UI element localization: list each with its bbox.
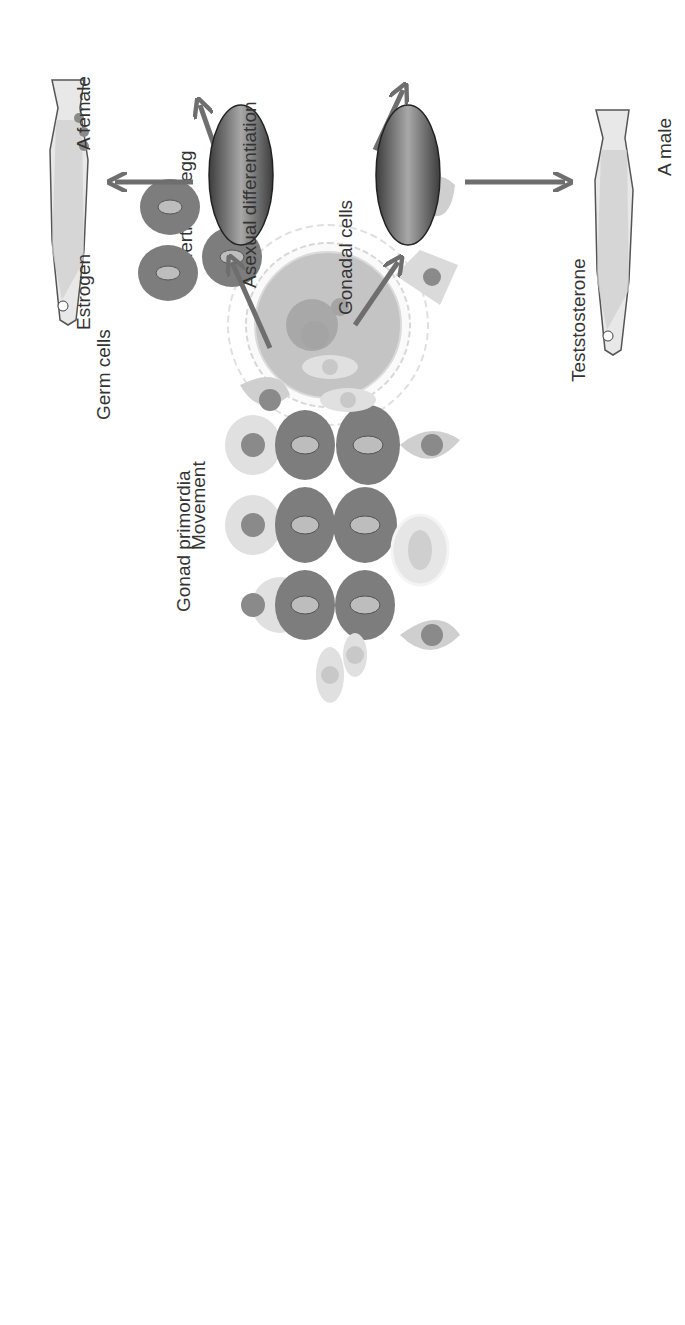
male-fish-icon — [595, 110, 633, 355]
germ-cells-label: Germ cells — [93, 329, 114, 420]
estrogen-label: Estrogen — [73, 254, 94, 330]
gonad-primordia — [225, 355, 460, 703]
sex-differentiation-diagram: A fertilized egg Germ cells Gonadal cell… — [0, 0, 685, 1325]
testosterone-label: Teststosterone — [568, 258, 589, 382]
asexual-differentiation-label: Asexual differentiation — [239, 101, 260, 288]
gonadal-cells-label: Gonadal cells — [335, 200, 356, 315]
gonad-male — [376, 105, 440, 245]
female-label: A female — [73, 76, 94, 150]
gonad-primordia-label: Gonad primordia — [173, 470, 194, 612]
male-label: A male — [654, 118, 675, 176]
